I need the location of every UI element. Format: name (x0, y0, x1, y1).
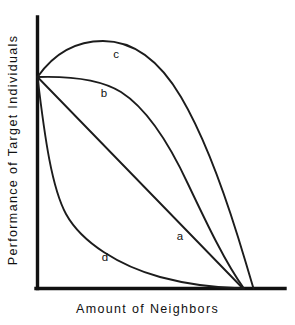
series-label-b: b (101, 87, 107, 99)
y-axis-title-wrapper: Performance of Target Individuals (0, 0, 26, 300)
series-label-c: c (113, 48, 119, 60)
line-chart-plot: c b a d (0, 0, 295, 325)
y-axis-title: Performance of Target Individuals (6, 35, 20, 266)
series-label-d: d (102, 251, 108, 263)
chart-figure: c b a d Performance of Target Individual… (0, 0, 295, 325)
series-label-a: a (177, 230, 184, 242)
x-axis-title: Amount of Neighbors (0, 302, 295, 316)
